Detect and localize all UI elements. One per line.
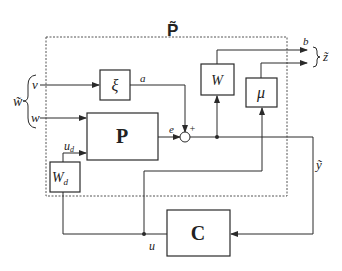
v-label: v [32, 77, 38, 92]
a-label: a [140, 72, 146, 84]
c-block: C [167, 210, 230, 256]
xi-label: ξ [112, 77, 119, 94]
augmented-plant-boundary [46, 37, 287, 196]
z-tilde-brace [313, 47, 320, 67]
y-tilde-label: ỹ [314, 157, 323, 172]
b-output-line [217, 50, 307, 64]
block-diagram: P̃ ξ P W μ Wd C [0, 0, 342, 271]
mu-output-line [261, 63, 307, 78]
e-label: e [169, 123, 174, 135]
w-tilde-label: w̃ [13, 94, 23, 109]
p-block: P [87, 113, 158, 160]
b-label: b [303, 35, 309, 47]
u-label: u [149, 239, 155, 253]
ud-label: ud [64, 139, 75, 154]
u-to-wd-line [63, 192, 167, 234]
ud-signal-line [63, 153, 86, 162]
p-label: P [116, 125, 128, 147]
w-label: W [211, 73, 224, 88]
w-label-input: w [31, 110, 40, 125]
xi-block: ξ [100, 70, 130, 100]
plus-sign: + [189, 123, 196, 134]
wd-block: Wd [50, 162, 80, 192]
c-label: C [191, 222, 205, 244]
mu-block: μ [246, 78, 277, 107]
z-tilde-label: z̃ [322, 49, 329, 64]
w-block: W [201, 64, 234, 95]
mu-label: μ [256, 84, 265, 102]
